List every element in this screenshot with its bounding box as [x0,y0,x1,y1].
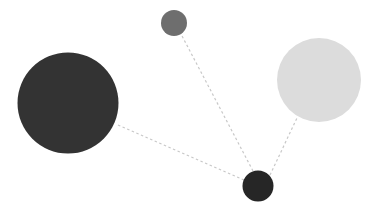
graph-svg [0,0,380,214]
edge-hub-light [270,118,297,175]
node-large-dark[interactable] [18,53,119,154]
node-light[interactable] [277,38,361,122]
node-hub[interactable] [243,171,274,202]
edge-hub-small-gray [181,34,253,171]
nodes-layer [18,10,362,202]
graph-canvas [0,0,380,214]
edge-hub-large-dark [118,125,244,180]
edges-layer [118,34,297,180]
node-small-gray[interactable] [161,10,187,36]
